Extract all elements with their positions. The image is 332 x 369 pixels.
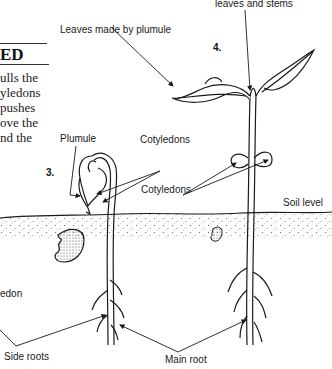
label-leaves-and-stems: leaves and stems <box>215 0 293 9</box>
label-main-root: Main root <box>165 354 207 365</box>
leader-lines <box>0 10 268 352</box>
seed-coat-4 <box>211 227 222 241</box>
seed-coat-3 <box>55 229 84 262</box>
stage-3-number: 3. <box>46 167 54 178</box>
label-soil-level: Soil level <box>283 197 323 208</box>
soil-layer <box>0 212 332 239</box>
label-leaves-made-by-plumule: Leaves made by plumule <box>60 24 171 35</box>
label-side-roots: Side roots <box>4 351 49 362</box>
label-plumule: Plumule <box>60 133 96 144</box>
label-cotyledon-cut: edon <box>0 288 22 299</box>
stage-4-number: 4. <box>213 42 221 53</box>
label-cotyledons-lower: Cotyledons <box>141 184 191 195</box>
label-cotyledons-upper: Cotyledons <box>140 134 190 145</box>
